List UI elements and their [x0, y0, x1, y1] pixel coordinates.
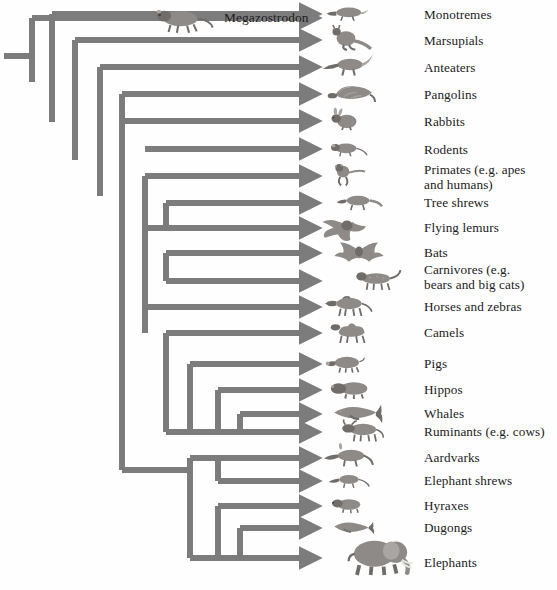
taxon-label: Monotremes [424, 8, 492, 23]
taxon-label: Camels [424, 326, 464, 341]
taxon-label: Tree shrews [424, 196, 489, 211]
taxon-label: Aardvarks [424, 451, 480, 466]
taxon-label: Dugongs [424, 521, 472, 536]
taxon-label: Pigs [424, 357, 447, 372]
taxon-label: Primates (e.g. apes and humans) [424, 163, 526, 193]
taxon-label: Anteaters [424, 61, 475, 76]
taxon-label: Rodents [424, 143, 468, 158]
taxon-label: Bats [424, 246, 448, 261]
taxon-label: Marsupials [424, 34, 484, 49]
taxon-label: Elephant shrews [424, 474, 512, 489]
taxon-label: Rabbits [424, 115, 465, 130]
taxon-label: Hippos [424, 383, 463, 398]
cladogram-figure: MonotremesMarsupialsAnteatersPangolinsRa… [0, 0, 557, 590]
taxon-label: Flying lemurs [424, 221, 499, 236]
taxon-label: Pangolins [424, 88, 477, 103]
taxon-label: Ruminants (e.g. cows) [424, 425, 545, 440]
taxon-label: Whales [424, 407, 464, 422]
taxon-label: Hyraxes [424, 499, 469, 514]
taxon-label: Horses and zebras [424, 300, 522, 315]
taxon-label: Carnivores (e.g. bears and big cats) [424, 263, 524, 293]
fossil-label-megazostrodon: Megazostrodon [224, 10, 309, 26]
taxon-label: Elephants [424, 556, 477, 571]
